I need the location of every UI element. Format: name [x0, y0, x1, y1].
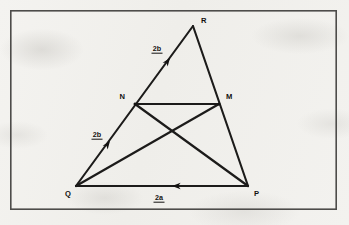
edge-QR	[76, 26, 193, 186]
cevian-QM	[76, 104, 219, 186]
vertex-label-M: M	[226, 92, 232, 101]
vertex-node-N	[134, 103, 137, 106]
svg-text:2b: 2b	[153, 44, 162, 53]
geometry-figure: R N M Q P 2b 2b 2a	[0, 0, 349, 225]
vector-label-2b-lower: 2b	[92, 130, 103, 139]
diagram-border	[11, 11, 336, 209]
vertex-node-M	[218, 103, 221, 106]
vertex-label-P: P	[254, 189, 259, 198]
svg-text:2b: 2b	[93, 130, 102, 139]
vertex-label-R: R	[201, 16, 207, 25]
cevian-PN	[135, 104, 248, 186]
vertex-label-Q: Q	[65, 189, 71, 198]
vector-label-2b-upper: 2b	[152, 44, 163, 53]
diagram-page: R N M Q P 2b 2b 2a	[0, 0, 349, 225]
vertex-label-N: N	[120, 92, 125, 101]
vector-label-2a-base: 2a	[154, 193, 165, 202]
edge-RP	[193, 26, 248, 186]
svg-text:2a: 2a	[155, 193, 164, 202]
